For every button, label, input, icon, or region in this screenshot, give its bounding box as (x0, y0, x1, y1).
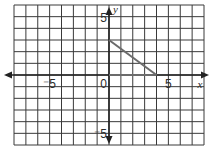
y-tick-label-5: 5 (100, 11, 107, 25)
x-tick-label-5: 5 (165, 77, 172, 91)
x-axis-label: x (197, 78, 203, 90)
coordinate-plane: 5 ⁻5 ⁻5 5 0 x y (0, 0, 215, 148)
axis-labels: 5 ⁻5 ⁻5 5 0 x y (43, 3, 202, 141)
axes (4, 7, 209, 144)
x-axis-left-arrow-icon (4, 72, 12, 79)
y-tick-label-neg5: ⁻5 (94, 127, 107, 141)
y-axis-label: y (112, 3, 118, 15)
x-tick-label-neg5: ⁻5 (43, 77, 56, 91)
origin-label: 0 (100, 77, 107, 91)
